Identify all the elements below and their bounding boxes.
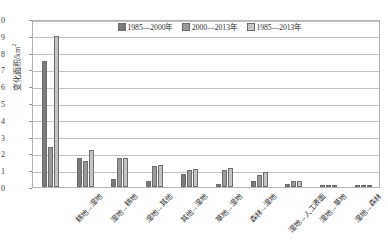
- y-axis-tick-mark: [29, 154, 32, 155]
- bar[interactable]: [42, 61, 47, 187]
- y-axis-tick-label: 6: [0, 83, 5, 92]
- y-axis-tick-mark: [29, 121, 32, 122]
- y-axis-tick-label: 0: [0, 184, 5, 193]
- bar[interactable]: [367, 185, 372, 187]
- bar-group: [33, 21, 68, 187]
- legend-label: 2000—2013年: [192, 21, 238, 32]
- y-axis-tick-label: 4: [0, 116, 5, 125]
- legend-swatch-icon: [182, 23, 190, 31]
- legend-item[interactable]: 1985—2013年: [247, 21, 302, 32]
- bar[interactable]: [228, 168, 233, 187]
- y-axis-title: 变化面积/km2: [11, 8, 22, 128]
- x-axis-tick-label: 湿地→其他: [142, 191, 174, 224]
- bar-group: [242, 21, 277, 187]
- y-axis-tick-mark: [29, 171, 32, 172]
- bar[interactable]: [216, 184, 221, 187]
- chart-legend: 1985—2000年2000—2013年1985—2013年: [118, 21, 302, 32]
- y-axis-tick-label: 1: [0, 167, 5, 176]
- x-axis-labels: 耕地→湿地湿地→耕地湿地→其他其他→湿地草地→湿地森林→湿地湿地→人工表面湿地→…: [32, 189, 380, 252]
- y-axis-tick-mark: [29, 37, 32, 38]
- bar[interactable]: [77, 158, 82, 187]
- legend-label: 1985—2013年: [256, 21, 302, 32]
- bar[interactable]: [355, 185, 360, 187]
- bar[interactable]: [89, 150, 94, 187]
- y-axis-tick-label: 10: [0, 16, 5, 25]
- bar[interactable]: [285, 184, 290, 187]
- bar[interactable]: [361, 185, 366, 187]
- bar[interactable]: [152, 166, 157, 187]
- y-axis-tick-label: 9: [0, 32, 5, 41]
- bar[interactable]: [332, 185, 337, 187]
- y-axis-tick-mark: [29, 87, 32, 88]
- bar[interactable]: [146, 181, 151, 187]
- legend-item[interactable]: 2000—2013年: [182, 21, 237, 32]
- bar-group: [172, 21, 207, 187]
- bar[interactable]: [251, 181, 256, 187]
- x-axis-tick-label: 森林→湿地: [247, 191, 279, 224]
- bars-layer: [33, 21, 379, 187]
- bar-chart: 变化面积/km2 012345678910 1985—2000年2000—201…: [0, 0, 388, 252]
- x-axis-tick-label: 其他→湿地: [177, 191, 209, 224]
- y-axis-tick-label: 8: [0, 49, 5, 58]
- bar[interactable]: [257, 175, 262, 187]
- plot-area: [32, 20, 380, 188]
- bar[interactable]: [326, 185, 331, 187]
- legend-label: 1985—2000年: [128, 21, 174, 32]
- bar[interactable]: [187, 170, 192, 187]
- bar[interactable]: [320, 185, 325, 187]
- bar-group: [207, 21, 242, 187]
- bar[interactable]: [48, 147, 53, 187]
- x-axis-tick-label: 湿地→森林: [351, 191, 383, 224]
- bar[interactable]: [54, 36, 59, 187]
- legend-swatch-icon: [118, 23, 126, 31]
- legend-item[interactable]: 1985—2000年: [118, 21, 173, 32]
- bar-group: [137, 21, 172, 187]
- bar[interactable]: [263, 172, 268, 187]
- bar-group: [346, 21, 381, 187]
- bar[interactable]: [297, 181, 302, 187]
- y-axis-tick-mark: [29, 54, 32, 55]
- bar[interactable]: [83, 161, 88, 187]
- y-axis-tick-label: 2: [0, 150, 5, 159]
- bar-group: [311, 21, 346, 187]
- bar[interactable]: [111, 179, 116, 187]
- bar-group: [68, 21, 103, 187]
- bar[interactable]: [123, 158, 128, 187]
- bar-group: [277, 21, 312, 187]
- x-axis-tick-label: 耕地→湿地: [73, 191, 105, 224]
- bar[interactable]: [291, 181, 296, 187]
- x-axis-tick-label: 湿地→耕地: [107, 191, 139, 224]
- x-axis-tick-label: 草地→湿地: [212, 191, 244, 224]
- bar[interactable]: [193, 169, 198, 187]
- legend-swatch-icon: [247, 23, 255, 31]
- y-axis-tick-mark: [29, 104, 32, 105]
- y-axis-title-text: 变化面积/km: [13, 47, 22, 91]
- y-axis-tick-label: 5: [0, 100, 5, 109]
- y-axis-tick-mark: [29, 138, 32, 139]
- y-axis-tick-label: 3: [0, 133, 5, 142]
- y-axis-tick-mark: [29, 20, 32, 21]
- y-axis-tick-label: 7: [0, 66, 5, 75]
- y-axis-title-exponent: 2: [11, 44, 17, 47]
- bar[interactable]: [181, 174, 186, 187]
- bar[interactable]: [117, 158, 122, 187]
- bar[interactable]: [158, 165, 163, 187]
- y-axis-tick-mark: [29, 70, 32, 71]
- bar-group: [103, 21, 138, 187]
- bar[interactable]: [222, 170, 227, 187]
